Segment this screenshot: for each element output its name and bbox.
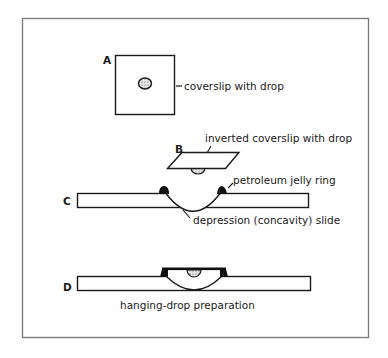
panel-letter-c: C	[63, 195, 71, 207]
panel-d: D hanging-drop preparation	[63, 268, 311, 312]
drop-icon	[139, 78, 152, 89]
panel-letter-a: A	[103, 54, 112, 66]
label-coverslip-with-drop: coverslip with drop	[184, 80, 284, 92]
panel-c: C petroleum jelly ring depression (conca…	[63, 174, 340, 226]
hanging-drop-diagram: A coverslip with drop B inverted coversl…	[0, 0, 388, 358]
jelly-seal-right	[220, 269, 228, 277]
jelly-ring-right	[217, 186, 227, 194]
jelly-seal-left	[160, 269, 168, 277]
concavity	[166, 194, 220, 212]
panel-a: A coverslip with drop	[103, 54, 284, 115]
panel-letter-d: D	[63, 281, 72, 293]
label-petroleum-jelly-ring: petroleum jelly ring	[233, 174, 336, 186]
label-hanging-drop-preparation: hanging-drop preparation	[120, 299, 255, 311]
jelly-ring-left	[159, 186, 169, 194]
label-inverted-coverslip: inverted coverslip with drop	[205, 132, 352, 144]
label-depression-slide: depression (concavity) slide	[193, 214, 340, 226]
panel-b: B inverted coverslip with drop	[168, 132, 353, 174]
